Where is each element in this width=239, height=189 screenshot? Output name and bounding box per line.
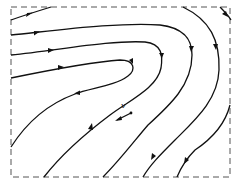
streamline-outer bbox=[11, 24, 192, 177]
vector-label: v bbox=[121, 102, 126, 110]
arrow-icon bbox=[34, 31, 40, 36]
streamline-diagram bbox=[0, 0, 239, 189]
arrow-icon bbox=[115, 116, 122, 121]
streamline-right-edge bbox=[177, 105, 230, 177]
domain-frame bbox=[11, 7, 230, 177]
velocity-vector bbox=[115, 112, 132, 121]
arrow-icon bbox=[151, 153, 156, 160]
streamline-inner-hairpin bbox=[11, 60, 133, 147]
streamline-middle bbox=[11, 42, 162, 177]
